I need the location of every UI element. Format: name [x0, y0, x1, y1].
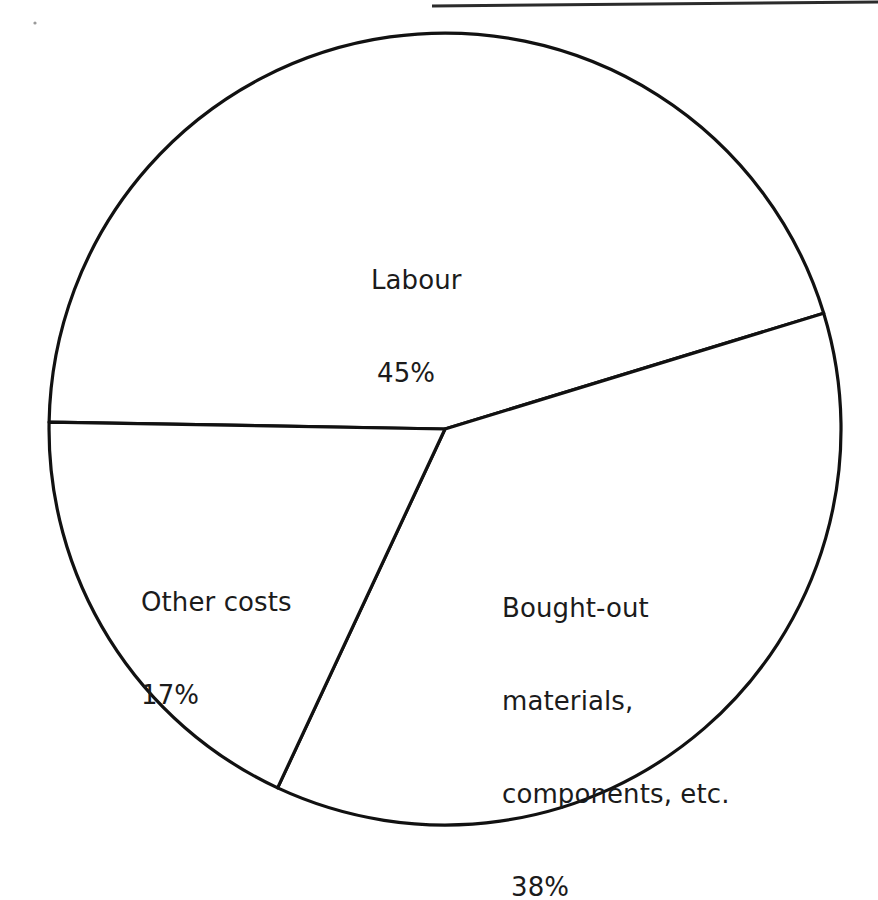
pie-label-bought-out-line3: components, etc. [502, 779, 730, 810]
pie-label-labour-value: 45% [371, 358, 462, 389]
pie-label-labour: Labour 45% [371, 203, 462, 451]
pie-label-bought-out-line1: Bought-out [502, 593, 730, 624]
pie-label-bought-out: Bought-out materials, components, etc. 3… [502, 531, 730, 900]
top-rule-divider [432, 2, 878, 6]
pie-label-labour-name: Labour [371, 265, 462, 296]
pie-label-bought-out-line2: materials, [502, 686, 730, 717]
pie-label-other-costs-name: Other costs [141, 587, 292, 618]
pie-label-bought-out-value: 38% [502, 872, 730, 900]
pie-label-other-costs-value: 17% [141, 680, 292, 711]
scan-speck [33, 21, 36, 24]
pie-label-other-costs: Other costs 17% [141, 525, 292, 773]
